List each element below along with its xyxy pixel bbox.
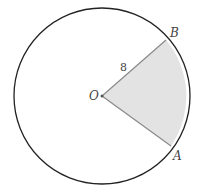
radius-length-label: 8 [120, 61, 127, 74]
diagram-canvas: O B A 8 [0, 0, 198, 188]
center-point [101, 95, 104, 98]
label-b: B [169, 26, 179, 40]
label-a: A [172, 149, 182, 163]
shaded-sector [102, 40, 186, 146]
label-o: O [89, 89, 99, 103]
